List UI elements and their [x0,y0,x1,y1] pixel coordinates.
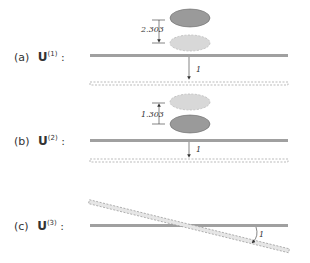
offset-label: 2.303 [140,25,164,34]
solid-ellipse [170,9,210,27]
offset-label: 1.303 [141,110,164,119]
rotation-label: 1 [259,230,264,239]
displacement-label: 1 [196,65,201,74]
panel-a: 2.303 1 [90,9,288,85]
panel-b: 1.303 1 [90,94,288,162]
displacement-label: 1 [196,145,201,154]
solid-ellipse [170,115,210,133]
beam-solid [90,139,288,142]
dashed-ellipse [170,94,210,110]
dashed-ellipse [170,35,210,51]
panel-c: 1 [88,200,289,253]
beam-dashed [90,159,288,162]
mode-diagram: 2.303 1 1.303 1 1 [0,0,310,263]
beam-solid [90,54,288,57]
beam-dashed [90,82,288,85]
